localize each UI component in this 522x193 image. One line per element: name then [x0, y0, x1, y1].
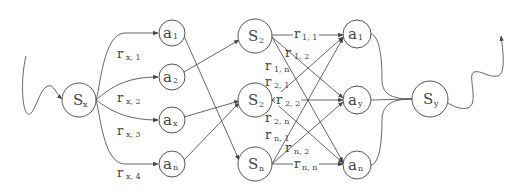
label-rx4: r x, 4: [117, 165, 141, 181]
svg-text:a: a: [348, 91, 357, 109]
node-sx: S x: [62, 83, 96, 117]
svg-text:x, 1: x, 1: [126, 53, 141, 62]
outgoing-wavy-edge: [448, 36, 503, 109]
svg-text:S: S: [423, 90, 433, 108]
svg-text:x: x: [173, 119, 178, 128]
svg-text:r: r: [117, 46, 124, 61]
svg-text:x, 3: x, 3: [126, 130, 141, 139]
svg-text:2: 2: [259, 100, 264, 109]
node-an: a n: [159, 151, 185, 177]
edge-an-s2b: [184, 103, 239, 160]
svg-text:a: a: [163, 68, 172, 86]
svg-text:r: r: [117, 165, 124, 180]
svg-text:2: 2: [173, 76, 178, 85]
state-transition-diagram: S x a 1 a 2 a x a n S 2 S 2 S n a 1: [0, 0, 522, 193]
label-r12: r 1, 2: [285, 45, 309, 61]
svg-text:r: r: [265, 110, 272, 125]
svg-text:2, n: 2, n: [274, 117, 289, 126]
incoming-wavy-edge: [23, 56, 62, 114]
svg-text:n, n: n, n: [302, 163, 317, 172]
svg-text:1: 1: [173, 32, 178, 41]
label-rx3: r x, 3: [117, 123, 141, 139]
edge-sx-a1: [96, 33, 158, 100]
svg-text:x: x: [83, 100, 88, 109]
edge-b1-sy: [371, 34, 412, 99]
svg-text:a: a: [163, 24, 172, 42]
node-a2: a 2: [159, 64, 185, 90]
svg-text:r: r: [294, 26, 301, 41]
edge-ax-s2b: [184, 101, 239, 117]
svg-text:a: a: [163, 111, 172, 129]
node-a1: a 1: [159, 20, 185, 46]
svg-text:x, 2: x, 2: [126, 97, 141, 106]
label-rx2: r x, 2: [117, 90, 141, 106]
svg-text:r: r: [265, 127, 272, 142]
svg-text:y: y: [433, 99, 439, 108]
svg-text:1: 1: [358, 33, 363, 42]
svg-text:a: a: [163, 155, 172, 173]
label-r21: r 2, 1: [265, 74, 289, 90]
node-s2-top: S 2: [238, 19, 272, 53]
label-r11: r 1, 1: [293, 26, 319, 42]
svg-text:r: r: [285, 45, 292, 60]
svg-text:2, 1: 2, 1: [274, 81, 289, 90]
svg-text:1, n: 1, n: [274, 65, 289, 74]
svg-text:S: S: [248, 155, 258, 173]
label-rx1: r x, 1: [117, 46, 141, 62]
node-sy: S y: [412, 81, 448, 117]
svg-text:S: S: [248, 91, 258, 109]
svg-text:y: y: [357, 99, 363, 108]
svg-text:2: 2: [259, 36, 264, 45]
svg-text:r: r: [265, 74, 272, 89]
svg-text:r: r: [117, 123, 124, 138]
edge-bn-sy: [371, 99, 412, 165]
svg-text:r: r: [265, 58, 272, 73]
svg-text:1, 2: 1, 2: [294, 52, 309, 61]
svg-text:x, 4: x, 4: [126, 172, 141, 181]
svg-text:n: n: [259, 164, 264, 173]
node-a1-right: a 1: [343, 20, 371, 48]
svg-text:a: a: [348, 156, 357, 174]
svg-text:r: r: [117, 90, 124, 105]
svg-text:S: S: [248, 27, 258, 45]
svg-text:r: r: [276, 92, 283, 107]
svg-text:a: a: [348, 25, 357, 43]
label-rnn: r n, n: [293, 156, 319, 172]
svg-text:n, 2: n, 2: [294, 147, 309, 156]
svg-text:2, 2: 2, 2: [285, 99, 300, 108]
svg-text:n: n: [358, 164, 363, 173]
label-r22: r 2, 2: [275, 92, 301, 108]
node-ax: a x: [159, 107, 185, 133]
node-an-right: a n: [343, 151, 371, 179]
edge-a1-sn: [184, 36, 239, 160]
svg-text:S: S: [73, 91, 83, 109]
node-ay: a y: [343, 86, 371, 114]
svg-text:1, 1: 1, 1: [302, 33, 317, 42]
svg-text:r: r: [285, 140, 292, 155]
edge-a2-s2a: [184, 40, 239, 72]
node-sn: S n: [238, 147, 272, 181]
svg-text:r: r: [294, 156, 301, 171]
svg-text:n: n: [173, 163, 178, 172]
